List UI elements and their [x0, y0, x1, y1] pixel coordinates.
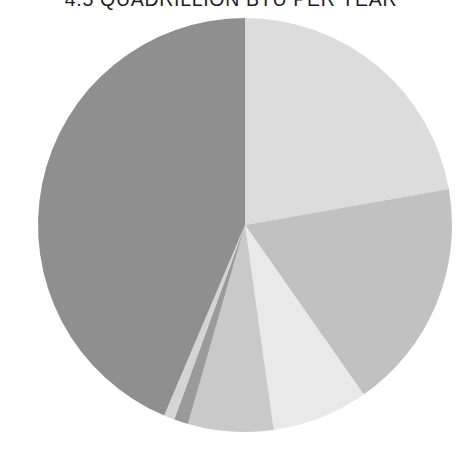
pie-slice [245, 18, 449, 225]
chart-title: 4.5 QUADRILLION BTU PER YEAR [0, 0, 462, 11]
pie-chart-page: 4.5 QUADRILLION BTU PER YEAR [0, 0, 462, 450]
pie-slice-group [38, 18, 452, 432]
chart-title-clip: 4.5 QUADRILLION BTU PER YEAR [0, 0, 462, 11]
pie-chart-svg [0, 0, 462, 450]
pie-chart-figure [0, 0, 462, 450]
